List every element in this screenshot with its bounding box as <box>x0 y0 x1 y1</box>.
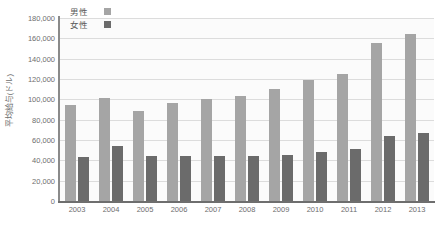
x-axis-tick-label: 2008 <box>230 205 264 214</box>
bar-group <box>196 18 230 201</box>
legend: 男性女性 <box>66 4 115 31</box>
bar <box>350 149 361 201</box>
bar <box>133 111 144 201</box>
bar <box>99 98 110 201</box>
x-axis-line <box>58 201 435 203</box>
bar-group <box>230 18 264 201</box>
legend-label: 女性 <box>70 18 94 30</box>
bar <box>78 157 89 201</box>
x-axis-tick-label: 2010 <box>298 205 332 214</box>
y-axis-tick-label: 140,000 <box>28 54 55 63</box>
y-axis-tick-label: 20,000 <box>32 176 55 185</box>
bar <box>418 133 429 201</box>
x-axis-tick-label: 2007 <box>196 205 230 214</box>
x-axis-tick-label: 2004 <box>94 205 128 214</box>
bar-group <box>366 18 400 201</box>
x-axis-tick-label: 2006 <box>162 205 196 214</box>
y-axis-tick-label: 40,000 <box>32 156 55 165</box>
bar <box>371 43 382 201</box>
bar-group <box>162 18 196 201</box>
bar <box>248 156 259 201</box>
x-axis-tick-label: 2011 <box>332 205 366 214</box>
y-axis-tick-label: 60,000 <box>32 136 55 145</box>
x-axis-tick-label: 2003 <box>60 205 94 214</box>
x-axis-tick-label: 2009 <box>264 205 298 214</box>
bar <box>337 74 348 201</box>
bar <box>303 80 314 201</box>
y-axis-tick-label: 0 <box>51 197 55 206</box>
bar <box>214 156 225 201</box>
bar-group <box>60 18 94 201</box>
bar <box>405 34 416 201</box>
bar-group <box>264 18 298 201</box>
x-axis-tick-label: 2013 <box>400 205 434 214</box>
bar <box>384 136 395 201</box>
x-axis-tick-label: 2005 <box>128 205 162 214</box>
x-axis-tick-label: 2012 <box>366 205 400 214</box>
y-axis-title-label: 平均給与(ドル) <box>4 73 15 126</box>
bar <box>235 96 246 201</box>
bar <box>180 156 191 201</box>
y-axis-tick-labels: 180,000160,000140,000120,000100,00080,00… <box>14 0 58 201</box>
bar <box>65 105 76 201</box>
y-axis-tick-label: 100,000 <box>28 95 55 104</box>
bar <box>167 103 178 201</box>
bar <box>269 89 280 201</box>
y-axis-tick-label: 160,000 <box>28 34 55 43</box>
bar <box>282 155 293 201</box>
y-axis-tick-label: 80,000 <box>32 115 55 124</box>
bar <box>146 156 157 201</box>
bar <box>316 152 327 201</box>
bar-group <box>128 18 162 201</box>
x-axis-tick-labels: 2003200420052006200720082009201020112012… <box>60 205 434 214</box>
y-axis-tick-label: 180,000 <box>28 14 55 23</box>
bar-group <box>332 18 366 201</box>
legend-swatch-icon <box>104 8 111 15</box>
legend-swatch-icon <box>104 21 111 28</box>
bar-group <box>400 18 434 201</box>
legend-item: 女性 <box>70 18 111 30</box>
legend-label: 男性 <box>70 5 94 17</box>
bar <box>201 99 212 201</box>
legend-item: 男性 <box>70 5 111 17</box>
bar <box>112 146 123 201</box>
bar-group <box>94 18 128 201</box>
y-axis-tick-label: 120,000 <box>28 75 55 84</box>
bar-groups <box>60 18 434 201</box>
plot-area <box>60 18 434 201</box>
bar-group <box>298 18 332 201</box>
bar-chart: 平均給与(ドル) 180,000160,000140,000120,000100… <box>0 0 437 230</box>
